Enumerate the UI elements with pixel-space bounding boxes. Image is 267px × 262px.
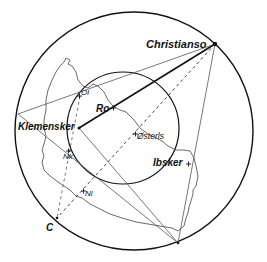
line-christianso-south: [178, 44, 215, 243]
line-christianso-klemensker: [79, 44, 215, 128]
island-coastline: [42, 58, 198, 231]
point-christianso: [213, 42, 217, 46]
label-c: C: [46, 222, 54, 233]
label-nl: Nl: [85, 189, 93, 198]
label-christianso: Christianso: [146, 38, 207, 50]
line-christianso-c: [57, 44, 215, 218]
point-klemensker: [78, 127, 81, 130]
label-ibsker: Ibsker: [153, 157, 184, 168]
label-osterls: Østerls: [136, 131, 165, 141]
point-south: [177, 242, 180, 245]
bornholm-diagram: Christianso Ro Klemensker Østerls Ibsker…: [0, 0, 267, 262]
line-klemensker-south: [79, 128, 178, 243]
marker-ibsker: [186, 162, 191, 167]
label-ol: Ol: [81, 88, 89, 97]
line-christianso-west: [18, 44, 215, 114]
label-ro: Ro: [96, 103, 109, 114]
point-c: [56, 217, 59, 220]
label-nk: Nk: [63, 152, 74, 161]
label-klemensker: Klemensker: [18, 121, 76, 132]
